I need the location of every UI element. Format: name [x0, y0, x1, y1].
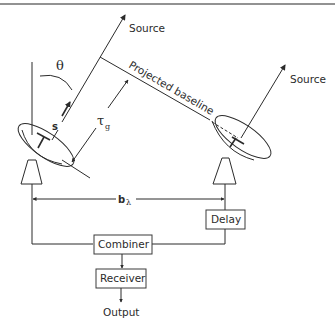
combiner-label: Combiner	[98, 238, 150, 250]
projected-baseline-line	[100, 57, 210, 120]
mount-left	[21, 160, 42, 184]
dish-right	[209, 108, 277, 166]
feed-left-stem	[38, 137, 44, 148]
tau-g-label: τ	[97, 113, 104, 128]
s-label: s	[52, 121, 58, 132]
mount-right	[213, 158, 236, 184]
tau-g-dimension-upper	[108, 80, 128, 108]
tau-g-dimension-lower	[72, 128, 96, 162]
theta-label: θ	[56, 58, 64, 73]
theta-arc	[40, 75, 72, 90]
delay-label: Delay	[211, 213, 241, 225]
source-label-right: Source	[290, 73, 326, 85]
projected-baseline-label: Projected baseline	[127, 58, 216, 117]
output-label: Output	[103, 306, 139, 318]
antenna-left	[12, 116, 80, 184]
source-label-left: Source	[129, 22, 165, 34]
baseline-label: b	[118, 194, 125, 205]
baseline-subscript: λ	[126, 198, 131, 207]
source-ray-right	[241, 65, 285, 138]
tau-g-subscript: g	[105, 122, 110, 131]
antenna-right: Source	[209, 65, 326, 184]
interferometer-diagram: Source θ s Projected baseline τ g Source…	[0, 0, 335, 334]
wavefront-line-left	[62, 160, 90, 178]
s-vector-arrow	[62, 102, 70, 116]
source-ray-left	[62, 15, 125, 122]
receiver-label: Receiver	[100, 272, 146, 284]
